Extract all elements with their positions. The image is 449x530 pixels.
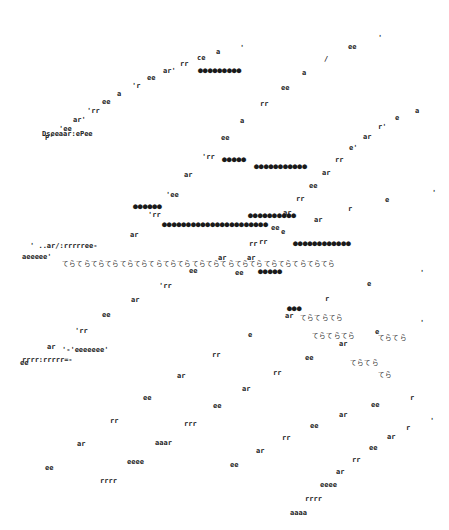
curve-glyph: r': [378, 124, 386, 131]
curve-glyph: r: [406, 425, 410, 432]
curve-glyph: ar: [256, 448, 264, 455]
curve-glyph: ar: [285, 313, 293, 320]
tera-text-run: てらてらてら: [300, 315, 343, 322]
curve-glyph: ar: [47, 344, 55, 351]
curve-glyph: rr: [180, 61, 188, 68]
curve-glyph: e: [281, 229, 285, 236]
curve-glyph: eeee: [320, 482, 337, 489]
tera-text-run: てらてら: [378, 335, 407, 342]
curve-glyph: ee: [230, 462, 238, 469]
curve-glyph: ar: [242, 386, 250, 393]
curve-glyph: a: [216, 49, 220, 56]
curve-glyph: e': [349, 145, 357, 152]
curve-glyph: ee: [371, 402, 379, 409]
tera-text-run: てらてらてらてらてらてらてらてらてらてらてらてらてらてらてらてらてらてらてら: [62, 261, 336, 268]
dot-run: ●●●●●●●●●●●●: [293, 240, 351, 248]
dot-run: ●●●●●●●●●●: [248, 212, 296, 220]
dot-run: ●●●●●: [258, 268, 282, 276]
curve-glyph: ee: [143, 395, 151, 402]
curve-glyph: r: [325, 296, 329, 303]
curve-glyph: ee: [235, 270, 243, 277]
curve-glyph: rr: [273, 370, 281, 377]
curve-glyph: r: [410, 395, 414, 402]
curve-glyph: ar': [73, 117, 86, 124]
dot-run: ●●●●●●●●●●●●●●●●●●●●●●: [162, 221, 268, 229]
tera-text-run: てらてらてら: [312, 333, 355, 340]
curve-glyph: ': [432, 190, 436, 197]
curve-glyph: a: [415, 108, 419, 115]
curve-tail: rrrr:rrrrr=-: [22, 357, 73, 364]
curve-glyph: ee: [221, 135, 229, 142]
curve-glyph: ': [430, 418, 434, 425]
curve-glyph: ar: [131, 297, 139, 304]
curve-glyph: 'rr: [87, 108, 100, 115]
curve-glyph: ar: [322, 170, 330, 177]
curve-glyph: 'rr: [202, 154, 215, 161]
curve-glyph: rrrr: [305, 496, 322, 503]
curve-glyph: e: [367, 281, 371, 288]
curve-glyph: ee: [369, 445, 377, 452]
curve-glyph: ar: [363, 134, 371, 141]
curve-glyph: ee: [348, 44, 356, 51]
curve-glyph: ar: [77, 441, 85, 448]
dot-run: ●●●: [287, 305, 301, 313]
curve-glyph: e: [248, 332, 252, 339]
curve-glyph: 'rr: [159, 283, 172, 290]
curve-tail: aeeeee': [22, 254, 52, 261]
curve-glyph: rr: [212, 352, 220, 359]
curve-glyph: ee: [102, 99, 110, 106]
curve-glyph: 'rr: [75, 328, 88, 335]
curve-glyph: ee: [147, 75, 155, 82]
curve-glyph: ee: [102, 312, 110, 319]
curve-glyph: ': [420, 270, 424, 277]
curve-glyph: ar: [130, 232, 138, 239]
curve-glyph: ar: [387, 434, 395, 441]
curve-glyph: r: [348, 206, 352, 213]
curve-glyph: ce: [197, 55, 205, 62]
curve-glyph: rr: [260, 101, 268, 108]
curve-glyph: rr: [249, 241, 257, 248]
curve-glyph: 'r: [132, 83, 140, 90]
curve-glyph: rr: [282, 435, 290, 442]
curve-glyph: e: [385, 197, 389, 204]
curve-glyph: /: [324, 56, 328, 63]
curve-glyph: rr: [352, 457, 360, 464]
curve-tail: Dseeaar:ePee: [42, 131, 93, 138]
curve-glyph: ee: [271, 225, 279, 232]
curve-glyph: ee: [281, 85, 289, 92]
curve-glyph: ': [240, 45, 244, 52]
dot-run: ●●●●●●: [133, 203, 162, 211]
curve-glyph: rr: [335, 157, 343, 164]
curve-glyph: e: [395, 115, 399, 122]
curve-glyph: 'ee: [166, 192, 179, 199]
curve-glyph: rr: [110, 418, 118, 425]
curve-glyph: rrr: [184, 421, 197, 428]
curve-glyph: ee: [213, 403, 221, 410]
curve-glyph: ee: [189, 268, 197, 275]
curve-glyph: a: [302, 70, 306, 77]
artwork-canvas: 'acerrar'ee'raee'rrar''eeP''ee/aeerraee'…: [0, 0, 449, 530]
curve-tail: '-'eeeeeee': [62, 347, 108, 354]
curve-glyph: ee: [45, 465, 53, 472]
curve-glyph: aaar: [155, 440, 172, 447]
dot-run: ●●●●●●●●●●●: [254, 163, 307, 171]
curve-glyph: ar: [336, 469, 344, 476]
curve-glyph: ': [420, 320, 424, 327]
curve-glyph: ar: [177, 373, 185, 380]
curve-glyph: ': [378, 35, 382, 42]
tera-text-run: てらてら: [350, 360, 379, 367]
curve-glyph: ee: [309, 183, 317, 190]
curve-glyph: ee: [305, 355, 313, 362]
curve-glyph: 'rr: [148, 212, 161, 219]
curve-glyph: eeee: [127, 459, 144, 466]
dot-run: ●●●●●●●●●: [198, 67, 241, 75]
curve-glyph: ar: [339, 412, 347, 419]
curve-glyph: ar: [314, 217, 322, 224]
curve-glyph: aaaa: [290, 510, 307, 517]
dot-run: ●●●●●: [222, 156, 246, 164]
curve-glyph: a: [240, 118, 244, 125]
tera-text-run: てら: [378, 372, 392, 379]
curve-glyph: rr: [259, 239, 267, 246]
curve-glyph: ar: [339, 341, 347, 348]
curve-tail: ' ..ar/:rrrrree-: [30, 243, 97, 250]
